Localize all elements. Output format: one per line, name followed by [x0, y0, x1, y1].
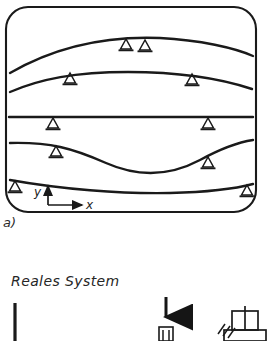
panel-label: a)	[3, 216, 16, 229]
x-axis-label: x	[85, 198, 94, 212]
support-triangle	[201, 118, 216, 129]
mode-shape-5	[8, 180, 255, 196]
y-axis-label: y	[33, 185, 42, 199]
support-triangle	[46, 118, 61, 129]
mode-shape-2	[10, 72, 252, 92]
figure-container: y x	[0, 0, 276, 341]
clamp-fixture	[159, 327, 173, 341]
mode-shape-3	[9, 117, 253, 129]
support-triangle	[119, 39, 134, 50]
real-system-symbols	[15, 297, 266, 341]
mode-shape-4	[10, 140, 253, 173]
mode-curve-2	[10, 72, 252, 92]
mode-curve-1	[10, 38, 253, 73]
section-heading: Reales System	[11, 274, 120, 288]
mode-shape-1	[10, 38, 253, 73]
mode-shape-diagram: y x	[0, 0, 276, 341]
mode-curve-5	[10, 180, 253, 193]
mode-curve-4	[10, 140, 253, 173]
support-triangle	[138, 40, 153, 51]
